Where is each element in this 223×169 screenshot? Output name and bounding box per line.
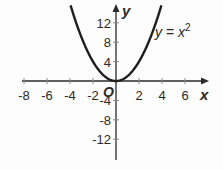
x-tick-label: -4 (64, 88, 76, 103)
parabola-chart: -8-6-4-2246-12-8-44812 x y O y = x2 (0, 0, 223, 169)
y-tick-label: 4 (104, 55, 111, 70)
x-tick-label: -8 (18, 88, 30, 103)
x-tick-label: 6 (181, 88, 188, 103)
x-tick-label: -2 (87, 88, 99, 103)
x-axis-arrow-icon (201, 78, 209, 85)
origin-label: O (103, 84, 114, 100)
y-tick-label: 8 (104, 35, 111, 50)
y-tick-label: 12 (97, 16, 111, 31)
y-tick-label: -8 (99, 113, 111, 128)
y-axis-label: y (121, 2, 131, 19)
x-tick-label: -6 (41, 88, 53, 103)
x-tick-label: 2 (135, 88, 142, 103)
x-tick-label: 4 (158, 88, 165, 103)
y-tick-label: -12 (92, 132, 111, 147)
curve-label: y = x2 (154, 22, 191, 40)
x-axis-label: x (199, 86, 209, 103)
y-axis-arrow-icon (113, 4, 120, 12)
